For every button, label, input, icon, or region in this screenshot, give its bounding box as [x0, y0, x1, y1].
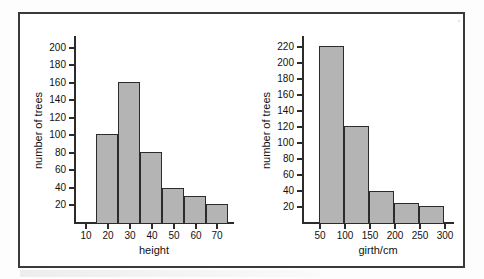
y-tick-label-height-chart: 20 — [34, 200, 66, 210]
y-tick-girth-chart — [297, 174, 302, 176]
y-tick-label-girth-chart: 20 — [262, 202, 294, 212]
y-tick-label-height-chart: 140 — [34, 95, 66, 105]
y-tick-height-chart — [69, 82, 74, 84]
y-tick-girth-chart — [297, 142, 302, 144]
y-tick-label-height-chart: 120 — [34, 113, 66, 123]
x-tick-height-chart — [129, 224, 131, 229]
y-tick-girth-chart — [297, 78, 302, 80]
y-tick-label-girth-chart: 100 — [262, 138, 294, 148]
y-tick-label-girth-chart: 140 — [262, 106, 294, 116]
y-tick-girth-chart — [297, 94, 302, 96]
y-tick-label-girth-chart: 220 — [262, 42, 294, 52]
bar-height-chart — [184, 196, 206, 224]
y-tick-height-chart — [69, 64, 74, 66]
bar-height-chart — [118, 82, 140, 224]
y-tick-girth-chart — [297, 110, 302, 112]
bar-height-chart — [206, 204, 228, 224]
bar-girth-chart — [394, 203, 419, 224]
y-tick-height-chart — [69, 99, 74, 101]
y-tick-label-girth-chart: 160 — [262, 90, 294, 100]
y-tick-height-chart — [69, 169, 74, 171]
bar-height-chart — [96, 134, 118, 224]
y-tick-height-chart — [69, 134, 74, 136]
y-tick-height-chart — [69, 117, 74, 119]
y-tick-label-height-chart: 180 — [34, 60, 66, 70]
y-tick-height-chart — [69, 152, 74, 154]
x-tick-girth-chart — [394, 224, 396, 229]
y-axis-line-height-chart — [74, 36, 76, 224]
chart-tree-height: number of trees height 20406080100120140… — [20, 14, 245, 266]
x-tick-height-chart — [173, 224, 175, 229]
caption-smudge — [20, 270, 320, 277]
y-tick-girth-chart — [297, 206, 302, 208]
x-tick-height-chart — [85, 224, 87, 229]
y-tick-label-girth-chart: 40 — [262, 186, 294, 196]
y-tick-label-height-chart: 100 — [34, 130, 66, 140]
y-tick-girth-chart — [297, 62, 302, 64]
x-tick-girth-chart — [344, 224, 346, 229]
y-tick-label-girth-chart: 180 — [262, 74, 294, 84]
x-tick-height-chart — [151, 224, 153, 229]
chart-tree-girth: number of trees girth/cm 204060801001201… — [245, 14, 467, 266]
figure-frame: number of trees height 20406080100120140… — [18, 12, 465, 268]
x-tick-height-chart — [216, 224, 218, 229]
bar-girth-chart — [419, 206, 444, 224]
y-tick-label-height-chart: 40 — [34, 183, 66, 193]
y-tick-girth-chart — [297, 190, 302, 192]
figure-page: number of trees height 20406080100120140… — [0, 0, 484, 279]
x-tick-girth-chart — [369, 224, 371, 229]
y-tick-label-height-chart: 200 — [34, 43, 66, 53]
bar-girth-chart — [344, 126, 369, 224]
x-tick-label-height-chart: 70 — [202, 231, 232, 241]
x-tick-height-chart — [107, 224, 109, 229]
x-axis-title-height-chart: height — [54, 244, 254, 256]
y-tick-label-girth-chart: 60 — [262, 170, 294, 180]
y-tick-label-height-chart: 80 — [34, 148, 66, 158]
y-tick-height-chart — [69, 187, 74, 189]
scan-speck — [458, 20, 460, 22]
bar-girth-chart — [319, 46, 344, 224]
bar-girth-chart — [369, 191, 394, 224]
x-tick-label-girth-chart: 300 — [430, 231, 460, 241]
x-axis-title-girth-chart: girth/cm — [282, 244, 474, 256]
x-tick-girth-chart — [319, 224, 321, 229]
y-tick-girth-chart — [297, 126, 302, 128]
y-tick-girth-chart — [297, 46, 302, 48]
y-tick-girth-chart — [297, 158, 302, 160]
y-tick-label-height-chart: 60 — [34, 165, 66, 175]
y-tick-label-girth-chart: 120 — [262, 122, 294, 132]
x-tick-girth-chart — [419, 224, 421, 229]
bar-height-chart — [162, 188, 184, 224]
y-tick-height-chart — [69, 47, 74, 49]
y-tick-height-chart — [69, 204, 74, 206]
y-tick-label-height-chart: 160 — [34, 78, 66, 88]
y-axis-line-girth-chart — [302, 36, 304, 224]
y-tick-label-girth-chart: 80 — [262, 154, 294, 164]
y-tick-label-girth-chart: 200 — [262, 58, 294, 68]
x-tick-height-chart — [195, 224, 197, 229]
x-tick-girth-chart — [444, 224, 446, 229]
bar-height-chart — [140, 152, 162, 224]
